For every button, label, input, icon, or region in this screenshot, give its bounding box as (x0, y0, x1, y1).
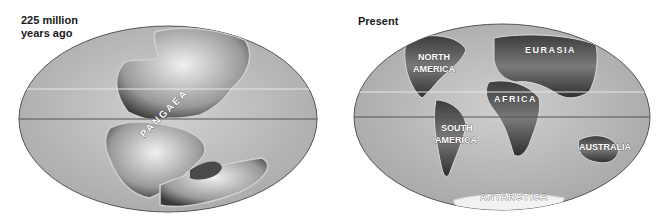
pangaea-map-panel: PANGAEA 225 million years ago (0, 0, 334, 221)
antarctica-label: ANTARCTICA (480, 192, 548, 202)
south-america-label-line2: AMERICA (435, 135, 477, 145)
africa-label: AFRICA (494, 94, 537, 104)
past-map-title: 225 million years ago (21, 14, 131, 40)
present-map-panel: NORTH AMERICA EURASIA AFRICA SOUTH AMERI… (334, 0, 669, 221)
present-map-title: Present (358, 15, 398, 28)
south-america-label-line1: SOUTH (441, 123, 473, 133)
title-line-2: years ago (21, 27, 131, 40)
eurasia-label: EURASIA (525, 45, 576, 55)
title-line-1: 225 million (21, 14, 131, 27)
north-america-label-line2: AMERICA (413, 64, 455, 74)
australia-label: AUSTRALIA (579, 142, 631, 152)
north-america-label-line1: NORTH (418, 52, 450, 62)
present-map: NORTH AMERICA EURASIA AFRICA SOUTH AMERI… (334, 0, 669, 221)
